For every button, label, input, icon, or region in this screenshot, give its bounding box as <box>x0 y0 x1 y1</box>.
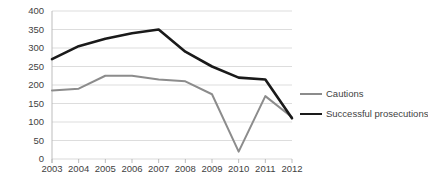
series-lines <box>52 11 292 159</box>
chart-legend: CautionsSuccessful prosecutions <box>300 88 405 128</box>
x-tick-label: 2006 <box>119 163 145 174</box>
y-tick-label: 150 <box>28 99 44 109</box>
y-tick-label: 400 <box>28 6 44 16</box>
x-tick-label: 2010 <box>226 163 252 174</box>
legend-item[interactable]: Successful prosecutions <box>300 108 405 119</box>
legend-label: Cautions <box>326 88 364 99</box>
x-tick-label: 2009 <box>199 163 225 174</box>
series-line-cautions <box>52 76 292 152</box>
x-axis: 2003200420052006200720082009201020112012 <box>52 161 292 177</box>
x-tick-label: 2005 <box>92 163 118 174</box>
legend-line-swatch-icon <box>300 113 322 115</box>
x-tick-label: 2003 <box>39 163 65 174</box>
y-axis: 400350300250200150100500 <box>0 0 48 170</box>
legend-item[interactable]: Cautions <box>300 88 405 99</box>
y-tick-label: 350 <box>28 25 44 35</box>
y-tick-label: 300 <box>28 43 44 53</box>
x-tick-label: 2011 <box>252 163 278 174</box>
y-tick-label: 250 <box>28 62 44 72</box>
legend-line-swatch-icon <box>300 93 322 95</box>
y-tick-label: 50 <box>33 136 44 146</box>
x-tick-label: 2012 <box>279 163 305 174</box>
x-tick-label: 2007 <box>146 163 172 174</box>
series-line-successful-prosecutions <box>52 30 292 119</box>
legend-label: Successful prosecutions <box>326 108 428 119</box>
y-tick-label: 200 <box>28 80 44 90</box>
plot-area <box>52 11 292 159</box>
x-tick-label: 2004 <box>66 163 92 174</box>
x-tick-label: 2008 <box>172 163 198 174</box>
y-tick-label: 100 <box>28 117 44 127</box>
